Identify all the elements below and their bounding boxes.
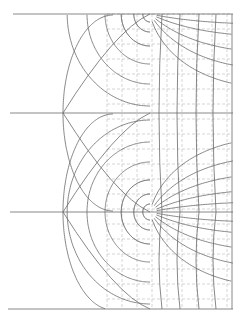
equipotential-arc bbox=[134, 14, 150, 32]
streamline bbox=[154, 161, 233, 206]
far-field-line bbox=[196, 14, 199, 309]
streamline bbox=[152, 143, 231, 205]
far-field-line bbox=[213, 14, 216, 309]
equipotential-arc bbox=[105, 15, 150, 65]
diagonal-curve bbox=[63, 113, 150, 212]
diagonal-curve bbox=[63, 113, 150, 212]
streamline bbox=[156, 17, 231, 34]
streamline bbox=[157, 213, 233, 221]
equipotential-arc bbox=[121, 14, 150, 46]
horizontal-boundary-lines bbox=[8, 14, 233, 309]
streamline bbox=[156, 192, 231, 209]
streamline bbox=[154, 218, 233, 263]
equipotential-arc bbox=[143, 14, 150, 22]
curvilinear-grid bbox=[63, 14, 233, 309]
far-field-line bbox=[159, 14, 162, 309]
streamline bbox=[154, 20, 233, 65]
streamline bbox=[152, 220, 231, 282]
equipotential-arc bbox=[67, 15, 150, 106]
diagonal-curve bbox=[63, 14, 150, 113]
streamline bbox=[157, 203, 233, 211]
outer-boundary-arc bbox=[63, 114, 113, 309]
streamline bbox=[157, 15, 233, 23]
streamline bbox=[156, 215, 231, 232]
flow-net-diagram bbox=[0, 0, 243, 321]
